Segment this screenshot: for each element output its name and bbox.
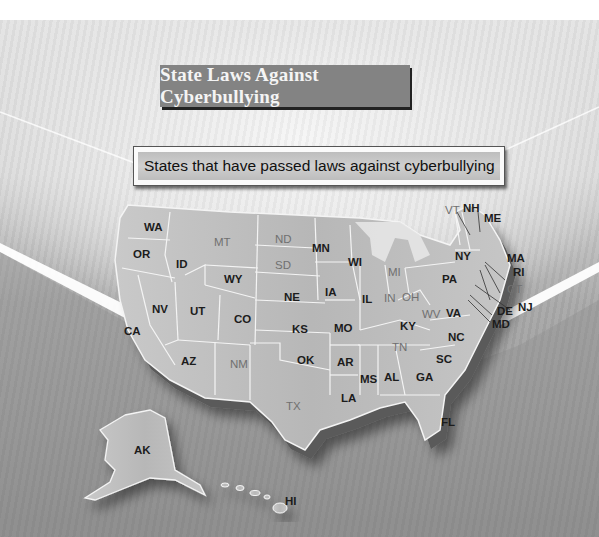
label-AK: AK bbox=[134, 444, 151, 456]
label-IA: IA bbox=[325, 286, 337, 298]
label-MO: MO bbox=[334, 322, 353, 334]
label-FL: FL bbox=[441, 416, 455, 428]
label-MS: MS bbox=[360, 373, 378, 385]
label-VT: VT bbox=[445, 204, 460, 216]
label-TN: TN bbox=[392, 341, 407, 353]
label-HI: HI bbox=[285, 495, 297, 507]
label-VA: VA bbox=[446, 307, 461, 319]
label-IL: IL bbox=[362, 293, 372, 305]
label-ID: ID bbox=[176, 258, 188, 270]
label-NJ: NJ bbox=[518, 301, 533, 313]
label-RI: RI bbox=[513, 266, 525, 278]
label-IN: IN bbox=[384, 292, 396, 304]
label-NH: NH bbox=[463, 202, 480, 214]
us-map: WA OR ID MT WY ND SD MN WI MI NV UT CO N… bbox=[0, 0, 599, 537]
label-KS: KS bbox=[292, 323, 308, 335]
label-OR: OR bbox=[133, 248, 151, 260]
label-TX: TX bbox=[286, 400, 301, 412]
label-ND: ND bbox=[275, 233, 292, 245]
label-NV: NV bbox=[152, 303, 168, 315]
label-OH: OH bbox=[402, 291, 419, 303]
label-WA: WA bbox=[144, 221, 163, 233]
label-PA: PA bbox=[442, 273, 457, 285]
label-NY: NY bbox=[455, 250, 471, 262]
label-MD: MD bbox=[492, 318, 510, 330]
label-OK: OK bbox=[297, 354, 315, 366]
label-MI: MI bbox=[388, 266, 401, 278]
label-CO: CO bbox=[234, 313, 251, 325]
label-SD: SD bbox=[275, 259, 291, 271]
label-SC: SC bbox=[436, 353, 452, 365]
label-NE: NE bbox=[284, 291, 300, 303]
label-ME: ME bbox=[484, 212, 502, 224]
label-KY: KY bbox=[400, 320, 416, 332]
hawaii bbox=[221, 483, 287, 513]
label-CT: CT bbox=[507, 283, 522, 295]
label-AL: AL bbox=[384, 371, 399, 383]
label-DE: DE bbox=[497, 305, 513, 317]
label-NM: NM bbox=[230, 358, 248, 370]
label-WV: WV bbox=[422, 308, 441, 320]
label-LA: LA bbox=[341, 392, 356, 404]
label-MN: MN bbox=[312, 242, 330, 254]
label-NC: NC bbox=[448, 331, 465, 343]
label-UT: UT bbox=[190, 305, 205, 317]
label-GA: GA bbox=[416, 371, 433, 383]
label-AR: AR bbox=[337, 356, 354, 368]
label-WI: WI bbox=[348, 256, 362, 268]
label-CA: CA bbox=[124, 325, 141, 337]
label-WY: WY bbox=[224, 273, 243, 285]
label-MA: MA bbox=[507, 252, 525, 264]
label-MT: MT bbox=[214, 236, 231, 248]
label-AZ: AZ bbox=[181, 355, 196, 367]
